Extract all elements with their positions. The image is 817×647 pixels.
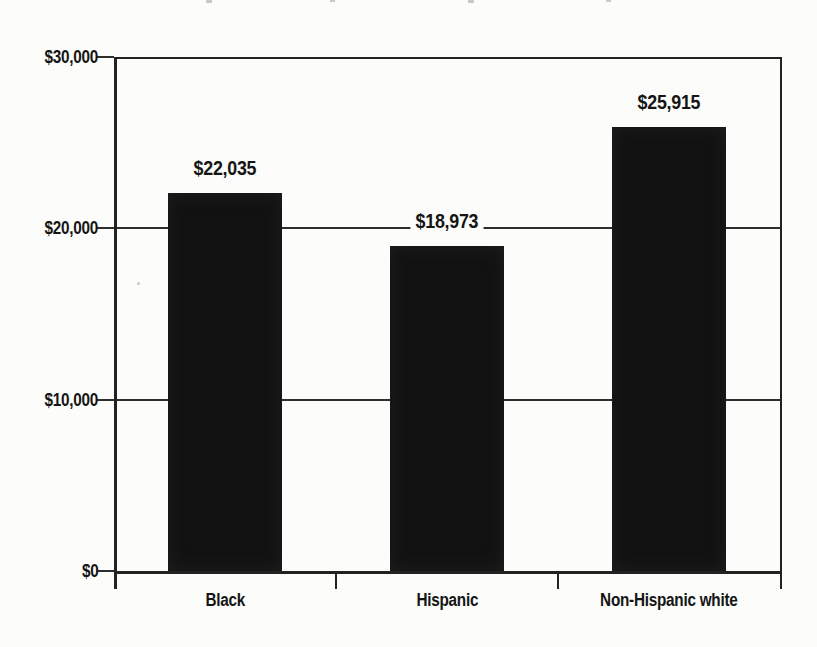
y-tick-30000 <box>97 56 114 58</box>
y-axis-line <box>114 57 117 589</box>
bar-value-label-hispanic: $18,973 <box>367 208 527 234</box>
y-tick-0 <box>97 570 114 572</box>
x-tick-1 <box>335 571 337 589</box>
y-tick-label-text: $10,000 <box>44 390 98 410</box>
bar-hispanic <box>390 246 504 571</box>
bar-value-label-black: $22,035 <box>145 155 305 181</box>
x-category-label-black: Black <box>115 590 335 610</box>
category-label-text: Non-Hispanic white <box>600 590 737 610</box>
x-category-label-non-hispanic-white: Non-Hispanic white <box>559 590 779 610</box>
x-axis-line <box>114 571 782 574</box>
bar-chart: $0$10,000$20,000$30,000$22,035Black$18,9… <box>0 0 817 647</box>
bar-value-label-non-hispanic-white: $25,915 <box>589 89 749 115</box>
y-tick-label-text: $20,000 <box>44 218 98 238</box>
category-label-text: Black <box>205 590 245 610</box>
bar-black <box>168 193 282 571</box>
y-tick-label-30000: $30,000 <box>12 47 98 67</box>
x-tick-2 <box>557 571 559 589</box>
y-tick-label-0: $0 <box>12 561 98 581</box>
category-label-text: Hispanic <box>416 590 478 610</box>
plot-border-top <box>114 57 782 59</box>
bar-value-text: $18,973 <box>411 208 484 234</box>
y-tick-label-10000: $10,000 <box>12 390 98 410</box>
x-category-label-hispanic: Hispanic <box>337 590 557 610</box>
bar-non-hispanic-white <box>612 127 726 571</box>
y-tick-label-text: $0 <box>81 561 98 581</box>
scanned-bar-chart-page: $0$10,000$20,000$30,000$22,035Black$18,9… <box>0 0 817 647</box>
plot-border-right <box>780 57 782 589</box>
y-tick-label-text: $30,000 <box>44 47 98 67</box>
y-tick-label-20000: $20,000 <box>12 218 98 238</box>
bar-value-text: $25,915 <box>633 89 706 115</box>
bar-value-text: $22,035 <box>189 155 262 181</box>
